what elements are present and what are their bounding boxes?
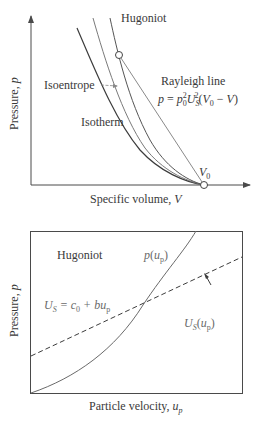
rayleigh-equation: p = p02US2(V0 − V) <box>157 91 238 108</box>
y-axis-label-bottom: Pressure, p <box>7 284 21 337</box>
x-axis-label: Specific volume, V <box>90 192 183 206</box>
isotherm-label: Isotherm <box>81 115 124 129</box>
rayleigh-line-label: Rayleigh line <box>161 74 225 88</box>
shocked-state-point <box>116 52 123 59</box>
hugoniot-label-bottom: Hugoniot <box>57 248 103 262</box>
us-up-curve-label: US(up) <box>184 316 215 332</box>
y-axis-label: Pressure, p <box>7 77 21 130</box>
shock-physics-diagrams: Hugoniot Isoentrope Isotherm Rayleigh li… <box>0 0 261 426</box>
pv-diagram: Hugoniot Isoentrope Isotherm Rayleigh li… <box>7 11 250 206</box>
x-axis-label-bottom: Particle velocity, up <box>89 399 183 415</box>
hugoniot-label: Hugoniot <box>121 11 167 25</box>
v0-label: V0 <box>199 165 210 181</box>
p-up-curve-label: p(up) <box>143 248 168 264</box>
initial-state-point-v0 <box>201 182 208 189</box>
isentrope-label: Isoentrope <box>44 78 95 92</box>
p-up-diagram: Hugoniot p(up) US = c0 + bup US(up) Part… <box>7 231 243 415</box>
us-equation-label: US = c0 + bup <box>44 298 110 314</box>
